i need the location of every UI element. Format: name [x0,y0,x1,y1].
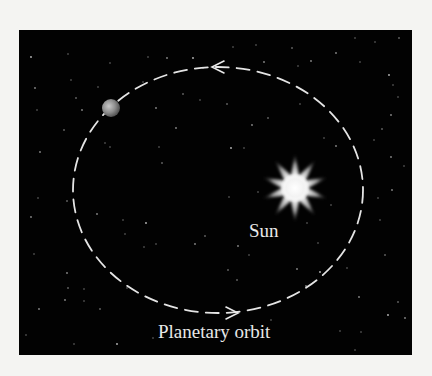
star-dot [392,84,393,85]
star-dot [330,204,331,205]
star-dot [390,114,392,116]
star-dot [236,279,237,280]
star-dot [387,314,389,316]
star-dot [158,146,159,147]
star-dot [109,146,110,147]
star-dot [339,330,340,331]
star-dot [161,162,162,163]
star-dot [96,213,98,215]
star-dot [360,331,361,332]
star-dot [199,99,200,100]
star-dot [97,86,98,87]
star-dot [38,308,40,310]
star-dot [255,44,256,45]
star-dot [237,245,239,247]
star-dot [36,109,37,110]
star-dot [66,200,67,201]
star-dot [267,117,268,118]
star-dot [30,56,32,58]
star-dot [73,343,74,344]
star-dot [403,165,404,166]
star-dot [354,37,355,38]
star-dot [296,268,298,270]
star-dot [34,87,36,89]
star-dot [299,103,300,104]
star-dot [354,349,355,350]
star-dot [37,197,38,198]
star-dot [227,269,228,270]
star-dot [145,222,147,224]
star-dot [319,271,321,273]
star-dot [358,296,360,298]
star-dot [30,216,32,218]
star-dot [397,301,398,302]
star-dot [175,127,177,129]
star-dot [359,61,360,62]
star-dot [377,197,378,198]
star-dot [397,96,398,97]
star-dot [204,235,205,236]
star-dot [155,107,157,109]
star-dot [155,243,156,244]
planetary-orbit-label: Planetary orbit [158,322,270,341]
star-dot [373,139,374,140]
star-dot [83,288,84,289]
star-dot [335,145,337,147]
star-dot [70,79,71,80]
star-dot [388,74,390,76]
star-dot [33,253,34,254]
star-dot [147,56,148,57]
star-dot [251,124,253,126]
star-dot [384,254,385,255]
star-dot [230,147,232,149]
star-dot [243,147,244,148]
star-dot [263,61,265,63]
star-dot [182,93,183,94]
star-dot [404,317,406,319]
star-dot [270,319,271,320]
star-dot [67,53,68,54]
star-dot [143,246,144,247]
star-dot [142,81,143,82]
star-dot [83,300,84,301]
star-dot [63,129,64,130]
star-dot [122,219,123,220]
star-dot [390,156,392,158]
space-panel [19,30,412,355]
star-dot [398,37,399,38]
star-dot [192,57,194,59]
star-dot [124,233,125,234]
star-dot [374,41,375,42]
star-dot [335,52,337,54]
orbit-diagram [0,0,432,376]
star-dot [194,243,196,245]
star-dot [228,196,229,197]
star-dot [104,142,105,143]
star-dot [166,57,168,59]
star-dot [346,267,347,268]
sun-label: Sun [249,221,279,240]
star-dot [126,287,127,288]
star-dot [257,191,258,192]
star-dot [226,103,227,104]
star-dot [248,254,249,255]
star-dot [232,46,233,47]
star-dot [297,65,298,66]
planet-icon [102,99,120,117]
star-dot [81,109,83,111]
star-dot [291,47,292,48]
star-dot [379,219,380,220]
star-dot [66,272,68,274]
star-dot [310,60,312,62]
star-dot [109,62,110,63]
star-dot [39,151,41,153]
star-dot [75,97,76,98]
star-dot [381,128,382,129]
star-dot [306,222,307,223]
star-dot [64,299,66,301]
star-dot [116,343,118,345]
star-dot [391,189,393,191]
star-dot [25,334,26,335]
star-dot [317,242,318,243]
star-dot [67,287,68,288]
